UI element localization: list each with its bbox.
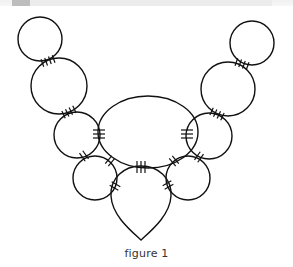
left-circle-3 xyxy=(54,112,100,158)
right-circle-3 xyxy=(186,113,232,159)
left-circle-1 xyxy=(18,17,62,61)
right-circle-2 xyxy=(201,62,255,116)
right-circle-1 xyxy=(230,21,274,65)
seam-marks xyxy=(41,55,249,190)
necklace-diagram xyxy=(0,0,293,267)
left-circle-2 xyxy=(31,58,87,114)
bottom-teardrop xyxy=(111,166,171,240)
seam-mark-2-left-lower xyxy=(79,151,88,161)
figure-caption: figure 1 xyxy=(0,247,293,260)
seam-mark-2-right-teardrop xyxy=(163,181,174,189)
center-ellipse xyxy=(98,96,198,168)
